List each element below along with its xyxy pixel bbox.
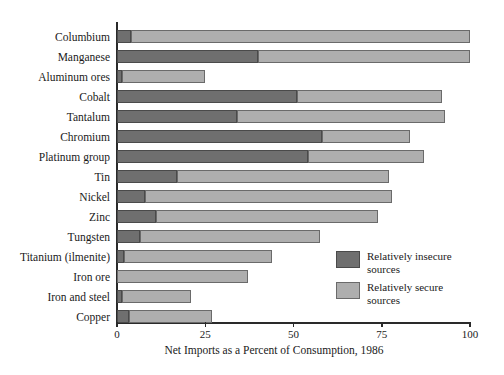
category-label: Columbium (55, 30, 110, 43)
x-axis-title-text: Net Imports as a Percent of Consumption,… (164, 344, 383, 356)
x-tick-label: 25 (200, 328, 211, 340)
bar-segment-secure[interactable] (124, 250, 272, 263)
x-axis-title: Net Imports as a Percent of Consumption,… (0, 344, 504, 356)
bar-segment-secure[interactable] (322, 130, 410, 143)
x-tick-label: 50 (288, 328, 299, 340)
bar-segment-insecure[interactable] (117, 30, 131, 43)
legend-label-line2: sources (367, 263, 400, 275)
bar-row: Columbium (117, 30, 470, 43)
x-tick-mark (205, 322, 207, 327)
bar-segment-secure[interactable] (308, 150, 424, 163)
bar-segment-secure[interactable] (156, 210, 378, 223)
category-label: Iron ore (73, 270, 110, 283)
bar-row: Tin (117, 170, 470, 183)
bar-segment-secure[interactable] (177, 170, 389, 183)
stacked-bar[interactable] (117, 230, 320, 243)
stacked-bar[interactable] (117, 70, 205, 83)
stacked-bar[interactable] (117, 30, 470, 43)
bar-segment-insecure[interactable] (117, 150, 308, 163)
legend-item[interactable]: Relatively securesources (336, 281, 496, 306)
stacked-bar[interactable] (117, 310, 212, 323)
category-label: Titanium (ilmenite) (20, 250, 110, 263)
x-tick-label: 0 (114, 328, 120, 340)
legend-label-line2: sources (367, 294, 400, 306)
legend-label: Relatively securesources (367, 281, 443, 306)
bar-segment-secure[interactable] (117, 270, 248, 283)
stacked-bar[interactable] (117, 170, 389, 183)
bar-segment-insecure[interactable] (117, 250, 124, 263)
bar-segment-secure[interactable] (237, 110, 445, 123)
chart-root: ColumbiumManganeseAluminum oresCobaltTan… (0, 0, 504, 375)
legend-swatch-secure (336, 282, 360, 299)
category-label: Manganese (58, 50, 110, 63)
bar-segment-secure[interactable] (297, 90, 442, 103)
bar-segment-secure[interactable] (122, 290, 191, 303)
category-label: Aluminum ores (38, 70, 110, 83)
x-tick-mark (381, 322, 383, 327)
legend-label-line1: Relatively secure (367, 281, 443, 293)
stacked-bar[interactable] (117, 250, 272, 263)
bar-segment-insecure[interactable] (117, 310, 129, 323)
bar-row: Cobalt (117, 90, 470, 103)
bar-segment-secure[interactable] (129, 310, 212, 323)
category-label: Cobalt (79, 90, 110, 103)
bar-row: Tantalum (117, 110, 470, 123)
stacked-bar[interactable] (117, 110, 445, 123)
stacked-bar[interactable] (117, 210, 378, 223)
legend-swatch-insecure (336, 251, 360, 268)
bar-row: Nickel (117, 190, 470, 203)
x-tick-mark (116, 322, 118, 327)
stacked-bar[interactable] (117, 290, 191, 303)
category-label: Tantalum (67, 110, 110, 123)
x-tick-mark (293, 322, 295, 327)
bar-row: Chromium (117, 130, 470, 143)
category-label: Tin (94, 170, 110, 183)
stacked-bar[interactable] (117, 50, 470, 63)
stacked-bar[interactable] (117, 270, 248, 283)
bar-segment-insecure[interactable] (117, 190, 145, 203)
category-label: Zinc (89, 210, 110, 223)
stacked-bar[interactable] (117, 190, 392, 203)
x-tick-mark (469, 322, 471, 327)
bar-row: Zinc (117, 210, 470, 223)
bar-segment-insecure[interactable] (117, 90, 297, 103)
category-label: Copper (76, 310, 110, 323)
bar-segment-insecure[interactable] (117, 130, 322, 143)
bar-row: Platinum group (117, 150, 470, 163)
bar-segment-insecure[interactable] (117, 210, 156, 223)
bar-segment-secure[interactable] (145, 190, 392, 203)
category-label: Chromium (60, 130, 110, 143)
bar-segment-insecure[interactable] (117, 50, 258, 63)
chart-legend: Relatively insecuresourcesRelatively sec… (336, 250, 496, 312)
bar-row: Manganese (117, 50, 470, 63)
bar-segment-secure[interactable] (258, 50, 470, 63)
legend-item[interactable]: Relatively insecuresources (336, 250, 496, 275)
stacked-bar[interactable] (117, 90, 442, 103)
bar-row: Tungsten (117, 230, 470, 243)
category-label: Nickel (79, 190, 110, 203)
legend-label-line1: Relatively insecure (367, 250, 452, 262)
x-tick-label: 100 (462, 328, 479, 340)
stacked-bar[interactable] (117, 150, 424, 163)
bar-segment-insecure[interactable] (117, 110, 237, 123)
bar-segment-secure[interactable] (122, 70, 205, 83)
category-label: Iron and steel (47, 290, 110, 303)
bar-segment-secure[interactable] (140, 230, 320, 243)
x-tick-label: 75 (376, 328, 387, 340)
stacked-bar[interactable] (117, 130, 410, 143)
bar-segment-secure[interactable] (131, 30, 470, 43)
bar-segment-insecure[interactable] (117, 170, 177, 183)
legend-label: Relatively insecuresources (367, 250, 452, 275)
bar-row: Aluminum ores (117, 70, 470, 83)
bar-segment-insecure[interactable] (117, 230, 140, 243)
category-label: Tungsten (68, 230, 110, 243)
category-label: Platinum group (39, 150, 110, 163)
